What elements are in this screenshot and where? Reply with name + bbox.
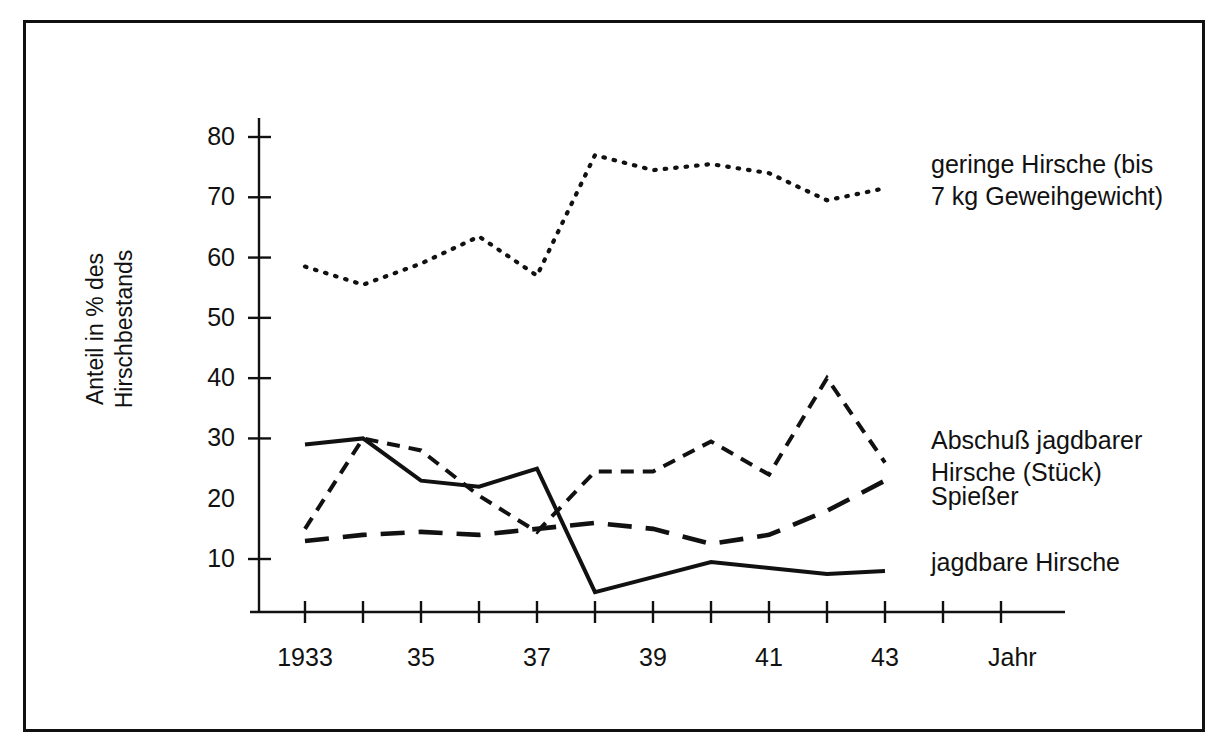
y-tick-label-10: 10 xyxy=(175,546,235,571)
data-series-group xyxy=(305,155,885,592)
y-tick-label-70: 70 xyxy=(175,184,235,209)
legend-label-geringe-hirsche: geringe Hirsche (bis 7 kg Geweihgewicht) xyxy=(931,148,1163,212)
x-tick-label-1937: 37 xyxy=(492,645,582,670)
x-tick-label-1943: 43 xyxy=(840,645,930,670)
x-tick-label-1933: 1933 xyxy=(260,645,350,670)
x-tick-label-1941: 41 xyxy=(724,645,814,670)
legend-label-jagdbare-hirsche: jagdbare Hirsche xyxy=(931,546,1120,578)
x-tick-label-1935: 35 xyxy=(376,645,466,670)
y-tick-label-20: 20 xyxy=(175,486,235,511)
legend-label-spiesser: Spießer xyxy=(931,480,1019,512)
y-tick-label-40: 40 xyxy=(175,365,235,390)
series-line-abschuss-jagdbarer-hirsche xyxy=(305,378,885,532)
y-axis-label: Anteil in % des Hirschbestands xyxy=(81,214,139,444)
legend-label-abschuss: Abschuß jagdbarer Hirsche (Stück) xyxy=(931,424,1142,488)
x-axis-label: Jahr xyxy=(988,645,1037,670)
y-tick-label-80: 80 xyxy=(175,124,235,149)
series-line-spiesser xyxy=(305,481,885,544)
y-tick-label-50: 50 xyxy=(175,305,235,330)
x-tick-label-1939: 39 xyxy=(608,645,698,670)
series-line-geringe-hirsche xyxy=(305,155,885,285)
y-tick-label-30: 30 xyxy=(175,425,235,450)
y-tick-label-60: 60 xyxy=(175,245,235,270)
series-line-jagdbare-hirsche xyxy=(305,438,885,592)
figure-page: Anteil in % des Hirschbestands 102030405… xyxy=(0,0,1229,756)
